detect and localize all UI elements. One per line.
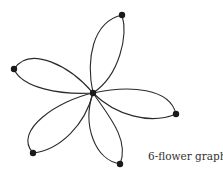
vertex-left — [11, 66, 17, 72]
petal-right — [93, 89, 176, 118]
vertex-bottom — [117, 161, 123, 167]
vertex-bottom-left — [30, 150, 36, 156]
vertex-center — [90, 90, 96, 96]
petal-left — [14, 58, 93, 93]
figure-caption: 6-flower graph — [148, 150, 223, 162]
flower-graph-figure: 6-flower graph — [0, 0, 223, 185]
vertex-right — [173, 111, 179, 117]
petal-bottom-left — [28, 93, 93, 153]
petal-top — [90, 15, 124, 93]
vertex-top — [119, 12, 125, 18]
